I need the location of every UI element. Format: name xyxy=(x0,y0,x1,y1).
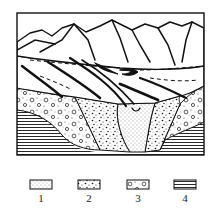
legend-label-3: 3 xyxy=(127,192,149,204)
legend-label-4: 4 xyxy=(174,192,196,204)
diagram-frame xyxy=(17,13,204,155)
legend-label-1: 1 xyxy=(30,192,52,204)
cross-section-diagram xyxy=(0,0,215,217)
legend-label-2: 2 xyxy=(78,192,100,204)
legend-swatch-3 xyxy=(127,180,149,189)
legend-swatch-4 xyxy=(174,180,196,189)
legend-swatch-1 xyxy=(30,180,52,189)
legend-swatch-2 xyxy=(78,180,100,189)
legend xyxy=(30,180,196,189)
